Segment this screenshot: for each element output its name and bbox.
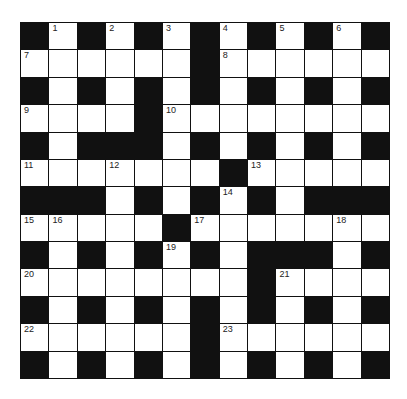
letter-cell[interactable]: 10 (163, 105, 190, 131)
letter-cell[interactable] (333, 133, 360, 159)
letter-cell[interactable]: 5 (276, 23, 303, 49)
letter-cell[interactable]: 22 (21, 324, 48, 350)
letter-cell[interactable] (163, 352, 190, 378)
letter-cell[interactable] (333, 160, 360, 186)
letter-cell[interactable] (49, 133, 76, 159)
letter-cell[interactable] (276, 133, 303, 159)
letter-cell[interactable] (78, 160, 105, 186)
letter-cell[interactable] (78, 105, 105, 131)
letter-cell[interactable] (220, 215, 247, 241)
letter-cell[interactable] (333, 297, 360, 323)
letter-cell[interactable] (49, 105, 76, 131)
letter-cell[interactable] (276, 352, 303, 378)
letter-cell[interactable] (305, 215, 332, 241)
letter-cell[interactable]: 16 (49, 215, 76, 241)
letter-cell[interactable] (106, 105, 133, 131)
letter-cell[interactable] (163, 78, 190, 104)
letter-cell[interactable] (333, 324, 360, 350)
letter-cell[interactable] (276, 50, 303, 76)
letter-cell[interactable]: 8 (220, 50, 247, 76)
letter-cell[interactable] (106, 215, 133, 241)
letter-cell[interactable]: 11 (21, 160, 48, 186)
letter-cell[interactable] (78, 215, 105, 241)
letter-cell[interactable] (49, 160, 76, 186)
letter-cell[interactable] (220, 352, 247, 378)
letter-cell[interactable] (333, 242, 360, 268)
letter-cell[interactable] (305, 50, 332, 76)
letter-cell[interactable]: 13 (248, 160, 275, 186)
letter-cell[interactable] (191, 269, 218, 295)
letter-cell[interactable] (220, 242, 247, 268)
letter-cell[interactable]: 15 (21, 215, 48, 241)
letter-cell[interactable] (362, 215, 389, 241)
letter-cell[interactable]: 18 (333, 215, 360, 241)
letter-cell[interactable] (78, 324, 105, 350)
letter-cell[interactable] (362, 269, 389, 295)
letter-cell[interactable] (276, 105, 303, 131)
letter-cell[interactable] (362, 105, 389, 131)
letter-cell[interactable] (78, 50, 105, 76)
letter-cell[interactable]: 14 (220, 187, 247, 213)
letter-cell[interactable] (49, 50, 76, 76)
letter-cell[interactable]: 6 (333, 23, 360, 49)
letter-cell[interactable]: 19 (163, 242, 190, 268)
letter-cell[interactable] (220, 105, 247, 131)
letter-cell[interactable] (333, 269, 360, 295)
letter-cell[interactable]: 4 (220, 23, 247, 49)
letter-cell[interactable] (135, 160, 162, 186)
letter-cell[interactable] (248, 105, 275, 131)
letter-cell[interactable]: 17 (191, 215, 218, 241)
letter-cell[interactable] (163, 133, 190, 159)
letter-cell[interactable] (248, 50, 275, 76)
letter-cell[interactable]: 3 (163, 23, 190, 49)
letter-cell[interactable] (362, 324, 389, 350)
letter-cell[interactable] (362, 160, 389, 186)
letter-cell[interactable] (220, 297, 247, 323)
letter-cell[interactable] (106, 78, 133, 104)
letter-cell[interactable] (248, 324, 275, 350)
letter-cell[interactable] (305, 105, 332, 131)
letter-cell[interactable] (135, 50, 162, 76)
letter-cell[interactable] (49, 269, 76, 295)
letter-cell[interactable] (49, 352, 76, 378)
letter-cell[interactable] (135, 269, 162, 295)
letter-cell[interactable] (106, 297, 133, 323)
letter-cell[interactable] (78, 269, 105, 295)
letter-cell[interactable]: 2 (106, 23, 133, 49)
letter-cell[interactable] (333, 105, 360, 131)
letter-cell[interactable] (163, 50, 190, 76)
letter-cell[interactable] (163, 160, 190, 186)
letter-cell[interactable] (191, 105, 218, 131)
letter-cell[interactable] (305, 269, 332, 295)
letter-cell[interactable]: 23 (220, 324, 247, 350)
letter-cell[interactable] (135, 324, 162, 350)
letter-cell[interactable] (333, 78, 360, 104)
letter-cell[interactable] (106, 352, 133, 378)
letter-cell[interactable] (49, 297, 76, 323)
letter-cell[interactable]: 21 (276, 269, 303, 295)
letter-cell[interactable] (220, 78, 247, 104)
letter-cell[interactable] (305, 160, 332, 186)
letter-cell[interactable]: 20 (21, 269, 48, 295)
letter-cell[interactable] (220, 133, 247, 159)
letter-cell[interactable] (163, 297, 190, 323)
letter-cell[interactable] (248, 215, 275, 241)
letter-cell[interactable] (135, 215, 162, 241)
letter-cell[interactable] (305, 324, 332, 350)
letter-cell[interactable]: 7 (21, 50, 48, 76)
letter-cell[interactable] (333, 352, 360, 378)
letter-cell[interactable] (276, 160, 303, 186)
letter-cell[interactable] (191, 160, 218, 186)
letter-cell[interactable] (276, 297, 303, 323)
letter-cell[interactable] (362, 50, 389, 76)
letter-cell[interactable]: 1 (49, 23, 76, 49)
letter-cell[interactable] (276, 215, 303, 241)
letter-cell[interactable] (163, 269, 190, 295)
letter-cell[interactable] (220, 269, 247, 295)
letter-cell[interactable] (276, 324, 303, 350)
letter-cell[interactable] (49, 324, 76, 350)
letter-cell[interactable]: 12 (106, 160, 133, 186)
letter-cell[interactable] (333, 50, 360, 76)
letter-cell[interactable] (106, 242, 133, 268)
letter-cell[interactable] (49, 242, 76, 268)
